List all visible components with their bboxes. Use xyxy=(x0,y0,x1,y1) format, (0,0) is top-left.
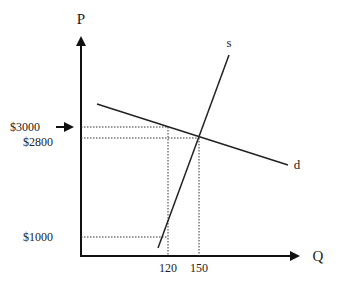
curves xyxy=(97,55,288,248)
x-tick-label-150: 150 xyxy=(190,261,208,275)
x-tick-label-120: 120 xyxy=(159,261,177,275)
demand-label: d xyxy=(294,157,301,172)
supply-curve xyxy=(158,55,229,248)
y-tick-label-1000: $1000 xyxy=(23,230,53,244)
y-tick-label-2800: $2800 xyxy=(23,135,53,149)
supply-label: s xyxy=(226,35,231,50)
y-axis-title: P xyxy=(77,11,85,27)
guide-lines xyxy=(81,127,199,256)
y-tick-label-3000: $3000 xyxy=(10,120,40,134)
supply-demand-diagram: P Q sd$3000$2800$1000120150 xyxy=(0,0,339,284)
x-axis-title: Q xyxy=(313,248,324,264)
